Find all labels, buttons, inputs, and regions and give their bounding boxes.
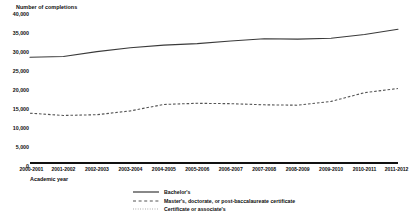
x-axis-tick-label: 2007-2008 (252, 166, 276, 172)
y-axis-tick-label: 5,000 (1, 144, 29, 150)
series-line-masters (30, 88, 398, 115)
y-axis-tick-labels: 40,00035,00030,00025,00020,00015,00010,0… (0, 0, 29, 220)
x-axis-tick-label: 2002-2003 (85, 166, 109, 172)
y-axis-tick-label: 20,000 (1, 87, 29, 93)
legend-item-certificate: Certificate or associate's (133, 205, 413, 213)
x-axis-tick-label: 2010-2011 (353, 166, 377, 172)
legend-swatch-solid-icon (133, 189, 159, 195)
x-axis-tick-label: 2006-2007 (219, 166, 243, 172)
legend-item-masters: Master's, doctorate, or post-baccalaurea… (133, 197, 413, 205)
legend-swatch-dotted-icon (133, 206, 159, 212)
x-axis-tick-label: 2000-2001 (19, 166, 43, 172)
chart-figure: Number of completions 40,00035,00030,000… (0, 0, 420, 220)
x-axis-tick-label: 2009-2010 (319, 166, 343, 172)
legend-item-bachelors: Bachelor's (133, 188, 413, 196)
x-axis-tick-label: 2004-2005 (152, 166, 176, 172)
x-axis-tick-label: 2003-2004 (118, 166, 142, 172)
y-axis-tick-label: 25,000 (1, 68, 29, 74)
x-axis-tick-label: 2008-2009 (286, 166, 310, 172)
legend-swatch-dashed-icon (133, 198, 159, 204)
series-lines (30, 14, 398, 166)
y-axis-tick-label: 35,000 (1, 30, 29, 36)
y-axis-tick-label: 30,000 (1, 49, 29, 55)
x-axis-title: Academic year (30, 176, 68, 182)
plot-area (30, 14, 398, 166)
y-axis-tick-label: 15,000 (1, 106, 29, 112)
x-axis-tick-label: 2005-2006 (185, 166, 209, 172)
x-axis-tick-label: 2011-2012 (385, 166, 409, 172)
series-line-bachelors (30, 29, 398, 57)
legend-label-bachelors: Bachelor's (164, 189, 191, 195)
y-axis-tick-label: 10,000 (1, 125, 29, 131)
chart-legend: Bachelor's Master's, doctorate, or post-… (133, 188, 413, 214)
legend-label-masters: Master's, doctorate, or post-baccalaurea… (164, 198, 295, 204)
x-axis-tick-labels: 2000-20012001-20022002-20032003-20042004… (0, 166, 420, 176)
x-axis-tick-label: 2001-2002 (51, 166, 75, 172)
x-axis-line (30, 162, 398, 164)
y-axis-tick-label: 40,000 (1, 11, 29, 17)
legend-label-certificate: Certificate or associate's (164, 206, 226, 212)
